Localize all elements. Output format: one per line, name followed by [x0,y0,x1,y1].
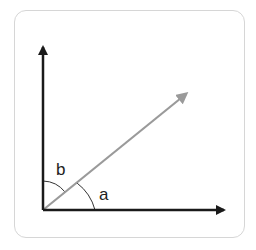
angle-label-a: a [99,185,109,204]
angle-diagram: b a [0,0,256,250]
angle-label-b: b [56,160,65,179]
angle-arc-a [77,183,95,210]
angle-arc-b [43,181,65,192]
diagonal-vector [43,94,186,210]
